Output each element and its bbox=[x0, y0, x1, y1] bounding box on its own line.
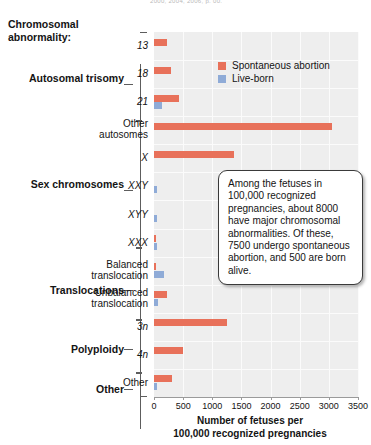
chart-legend: Spontaneous abortion Live-born bbox=[218, 59, 330, 85]
bar-spontaneous-abortion-13 bbox=[154, 39, 167, 46]
x-tick bbox=[329, 397, 330, 400]
gridline-horizontal bbox=[154, 313, 358, 314]
cropped-source-text: 2000, 2004, 2006, p. 00. bbox=[150, 0, 222, 4]
bar-spontaneous-abortion-other-autosomes bbox=[154, 123, 332, 130]
gridline-vertical bbox=[212, 32, 213, 397]
legend-label-live-born: Live-born bbox=[232, 73, 274, 84]
legend-label-spontaneous-abortion: Spontaneous abortion bbox=[232, 60, 330, 71]
x-tick bbox=[300, 397, 301, 400]
x-tick bbox=[212, 397, 213, 400]
bar-live-born-xyy bbox=[154, 215, 157, 222]
bar-spontaneous-abortion-other bbox=[154, 375, 172, 382]
gridline-horizontal bbox=[154, 369, 358, 370]
bar-spontaneous-abortion-balanced-translocation bbox=[154, 263, 156, 270]
legend-swatch-icon-spontaneous-abortion bbox=[218, 62, 226, 70]
callout-text: Among the fetuses in 100,000 recognized … bbox=[228, 178, 354, 277]
x-tick bbox=[154, 397, 155, 400]
bracket-cap-bottom bbox=[140, 396, 147, 397]
category-label-3n: 3n bbox=[78, 321, 148, 332]
legend-item-live-born: Live-born bbox=[218, 72, 330, 85]
bar-spontaneous-abortion-x bbox=[154, 151, 234, 158]
x-tick bbox=[241, 397, 242, 400]
bar-spontaneous-abortion-21 bbox=[154, 95, 179, 102]
category-label-13: 13 bbox=[78, 40, 148, 51]
x-tick bbox=[358, 397, 359, 400]
bar-spontaneous-abortion-3n bbox=[154, 319, 227, 326]
category-label-balanced-translocation: Balanced translocation bbox=[78, 259, 148, 281]
gridline-horizontal bbox=[154, 116, 358, 117]
group-dash-autosomal-trisomy bbox=[124, 84, 133, 85]
bar-spontaneous-abortion-unbalanced-translocation bbox=[154, 291, 167, 298]
category-label-xyy: XYY bbox=[78, 209, 148, 220]
bar-live-born-balanced-translocation bbox=[154, 271, 164, 278]
callout-box: Among the fetuses in 100,000 recognized … bbox=[218, 170, 363, 285]
category-label-other-autosomes: Other autosomes bbox=[78, 118, 148, 140]
category-label-unbalanced-translocation: Unbalanced translocation bbox=[78, 287, 148, 309]
category-label-xxy: XXY bbox=[78, 180, 148, 191]
bar-live-born-xxx bbox=[154, 243, 157, 250]
legend-swatch-icon-live-born bbox=[218, 75, 226, 83]
gridline-horizontal bbox=[154, 341, 358, 342]
x-axis-title: Number of fetuses per 100,000 recognized… bbox=[130, 415, 370, 440]
category-label-4n: 4n bbox=[78, 349, 148, 360]
category-label-other: Other bbox=[78, 377, 148, 388]
bar-spontaneous-abortion-4n bbox=[154, 347, 183, 354]
legend-item-spontaneous-abortion: Spontaneous abortion bbox=[218, 59, 330, 72]
category-label-xxx: XXX bbox=[78, 237, 148, 248]
group-dash-other bbox=[124, 389, 133, 390]
bracket-cap-top bbox=[140, 32, 147, 33]
gridline-horizontal bbox=[154, 144, 358, 145]
bar-spontaneous-abortion-18 bbox=[154, 67, 171, 74]
x-tick bbox=[271, 397, 272, 400]
chromosomal-abnormality-bar-chart: 2000, 2004, 2006, p. 00. Chromosomal abn… bbox=[0, 0, 371, 445]
bar-live-born-other bbox=[154, 383, 157, 390]
bar-live-born-xxy bbox=[154, 186, 157, 193]
x-tick-label-3500: 3500 bbox=[341, 401, 371, 411]
bar-live-born-21 bbox=[154, 102, 162, 109]
x-axis-line bbox=[154, 397, 358, 398]
category-label-18: 18 bbox=[78, 68, 148, 79]
category-label-x: X bbox=[78, 152, 148, 163]
bar-live-born-unbalanced-translocation bbox=[154, 299, 158, 306]
gridline-vertical bbox=[183, 32, 184, 397]
bar-spontaneous-abortion-xxx bbox=[154, 235, 156, 242]
bracket-tick-polyploidy bbox=[136, 372, 142, 374]
x-tick bbox=[183, 397, 184, 400]
gridline-horizontal bbox=[154, 88, 358, 89]
category-label-21: 21 bbox=[78, 96, 148, 107]
